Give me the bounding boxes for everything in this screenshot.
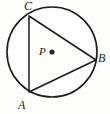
vertex-label-c: C	[24, 0, 32, 12]
circle-triangle-diagram	[0, 0, 110, 114]
geometry-figure: C B A P	[0, 0, 110, 114]
vertex-label-a: A	[18, 99, 25, 111]
vertex-label-b: B	[98, 52, 105, 64]
center-point-dot	[49, 49, 54, 54]
center-label-p: P	[39, 46, 46, 57]
